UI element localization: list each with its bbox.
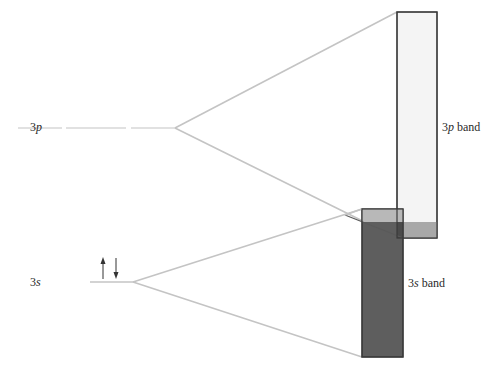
3p-band-label: 3p band — [442, 120, 480, 135]
3p-level-label: 3p — [30, 120, 42, 135]
spin-up-arrow-icon — [101, 257, 106, 279]
band-diagram — [0, 0, 496, 376]
3p-band-suffix: band — [454, 120, 480, 134]
3s-band-label: 3s band — [408, 276, 445, 291]
fan-line-crossing-light — [345, 209, 362, 215]
3s-fan-lines — [133, 209, 362, 357]
spin-down-arrow-icon — [114, 258, 119, 279]
3s-band-suffix: band — [419, 276, 445, 290]
3p-fan-lines — [175, 12, 397, 238]
3p-sublevel: p — [36, 120, 42, 134]
3s-sublevel: s — [36, 275, 41, 289]
3p-band-rect — [397, 12, 437, 238]
electron-arrows — [101, 257, 119, 279]
3s-level-label: 3s — [30, 275, 41, 290]
